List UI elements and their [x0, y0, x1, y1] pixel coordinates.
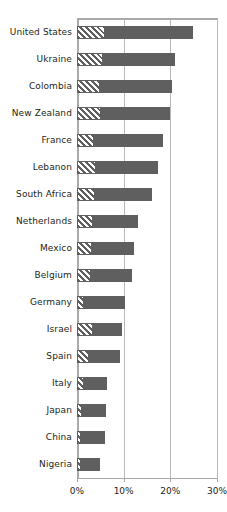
- bar-hatched-segment: [77, 377, 84, 390]
- bar-row: China: [0, 424, 227, 451]
- category-label: Spain: [0, 343, 72, 370]
- category-label: Lebanon: [0, 154, 72, 181]
- bar-hatched-segment: [77, 296, 84, 309]
- category-label: Japan: [0, 397, 72, 424]
- bar-row: Italy: [0, 370, 227, 397]
- bar: [77, 377, 107, 390]
- bar: [77, 296, 125, 309]
- bar-hatched-segment: [77, 134, 94, 147]
- bar-row: Ukraine: [0, 46, 227, 73]
- bar-hatched-segment: [77, 269, 91, 282]
- bar-hatched-segment: [77, 188, 95, 201]
- bar-hatched-segment: [77, 215, 93, 228]
- bar: [77, 323, 122, 336]
- bar-row: Netherlands: [0, 208, 227, 235]
- bar-row: Nigeria: [0, 451, 227, 478]
- bar: [77, 53, 175, 66]
- bar-row: France: [0, 127, 227, 154]
- bar-hatched-segment: [77, 350, 89, 363]
- bar: [77, 161, 158, 174]
- bar: [77, 26, 193, 39]
- bar-row: Lebanon: [0, 154, 227, 181]
- bar-solid-segment: [77, 431, 105, 444]
- bar-row: Mexico: [0, 235, 227, 262]
- bar: [77, 458, 100, 471]
- bar-row: Colombia: [0, 73, 227, 100]
- bar-hatched-segment: [77, 80, 100, 93]
- category-label: Netherlands: [0, 208, 72, 235]
- bar-hatched-segment: [77, 161, 96, 174]
- category-label: Ukraine: [0, 46, 72, 73]
- x-tick-10: [124, 478, 125, 482]
- category-label: Nigeria: [0, 451, 72, 478]
- category-label: Colombia: [0, 73, 72, 100]
- bar-hatched-segment: [77, 458, 81, 471]
- x-tick-label: 0%: [57, 486, 97, 496]
- x-tick-label: 20%: [150, 486, 190, 496]
- bar: [77, 215, 138, 228]
- x-tick-label: 10%: [104, 486, 144, 496]
- category-label: France: [0, 127, 72, 154]
- category-label: Belgium: [0, 262, 72, 289]
- bar-hatched-segment: [77, 26, 105, 39]
- category-label: Mexico: [0, 235, 72, 262]
- bar-row: United States: [0, 19, 227, 46]
- bar-row: Japan: [0, 397, 227, 424]
- bar-row: South Africa: [0, 181, 227, 208]
- bar-row: New Zealand: [0, 100, 227, 127]
- bar-hatched-segment: [77, 107, 101, 120]
- bar-row: Israel: [0, 316, 227, 343]
- x-tick-20: [170, 478, 171, 482]
- x-axis-line: [77, 478, 218, 479]
- bar: [77, 188, 152, 201]
- bar: [77, 431, 105, 444]
- x-tick-0: [77, 478, 78, 482]
- category-label: New Zealand: [0, 100, 72, 127]
- bar: [77, 134, 163, 147]
- bar-row: Belgium: [0, 262, 227, 289]
- bar: [77, 107, 170, 120]
- bar-hatched-segment: [77, 323, 93, 336]
- category-label: South Africa: [0, 181, 72, 208]
- bar-hatched-segment: [77, 242, 92, 255]
- bar-row: Germany: [0, 289, 227, 316]
- bar: [77, 269, 132, 282]
- bar-chart: United StatesUkraineColombiaNew ZealandF…: [0, 0, 227, 512]
- category-label: Israel: [0, 316, 72, 343]
- bar: [77, 80, 172, 93]
- bar-hatched-segment: [77, 404, 82, 417]
- bar-hatched-segment: [77, 431, 81, 444]
- bar: [77, 242, 134, 255]
- bar: [77, 350, 120, 363]
- x-tick-30: [217, 478, 218, 482]
- bar-hatched-segment: [77, 53, 103, 66]
- category-label: Germany: [0, 289, 72, 316]
- category-label: Italy: [0, 370, 72, 397]
- x-tick-label: 30%: [197, 486, 227, 496]
- bar: [77, 404, 106, 417]
- bar-row: Spain: [0, 343, 227, 370]
- category-label: United States: [0, 19, 72, 46]
- category-label: China: [0, 424, 72, 451]
